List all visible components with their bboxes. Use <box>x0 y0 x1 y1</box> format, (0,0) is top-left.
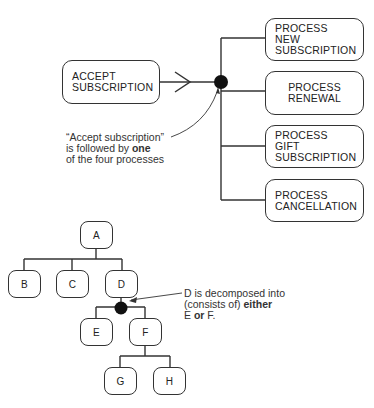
box-label: SUBSCRIPTION <box>275 45 356 56</box>
accept-subscription-box: ACCEPT SUBSCRIPTION <box>62 60 160 104</box>
bottom-annotation: D is decomposed into (consists of) eithe… <box>184 288 285 321</box>
box-label: RENEWAL <box>288 93 341 104</box>
node-a: A <box>80 221 113 249</box>
node-b: B <box>8 270 41 298</box>
box-label: PROCESS <box>275 190 328 201</box>
process-gift-subscription-box: PROCESS GIFT SUBSCRIPTION <box>265 125 364 168</box>
node-h: H <box>153 367 186 395</box>
junction-dot <box>214 75 228 89</box>
top-annotation: “Accept subscription” is followed by one… <box>66 132 164 165</box>
node-e: E <box>80 318 113 346</box>
process-cancellation-box: PROCESS CANCELLATION <box>265 179 364 222</box>
node-f: F <box>129 318 162 346</box>
box-label: SUBSCRIPTION <box>72 82 153 93</box>
box-label: CANCELLATION <box>275 201 357 212</box>
node-d: D <box>105 270 138 298</box>
process-new-subscription-box: PROCESS NEW SUBSCRIPTION <box>265 18 364 61</box>
node-c: C <box>56 270 89 298</box>
process-renewal-box: PROCESS RENEWAL <box>265 71 364 115</box>
box-label: SUBSCRIPTION <box>275 152 356 163</box>
junction-dot <box>115 302 128 315</box>
node-g: G <box>104 367 137 395</box>
